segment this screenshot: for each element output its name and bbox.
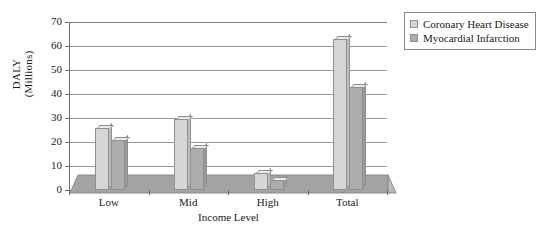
bar: [95, 128, 109, 190]
plot-area: [69, 22, 387, 190]
x-axis-labels: LowMidHighTotal: [69, 196, 388, 210]
bar-face: [349, 87, 363, 190]
bar-face: [270, 180, 284, 190]
y-axis-title: DALY (Millions): [10, 14, 34, 134]
x-axis-label-low: Low: [99, 196, 119, 209]
bar-side-3d: [188, 114, 191, 188]
bar-side-3d: [347, 34, 350, 188]
legend-item-myocardial-infarction: Myocardial Infarction: [410, 31, 529, 45]
legend-swatch-coronary-heart-disease: [410, 20, 418, 28]
bar: [349, 87, 363, 190]
x-tick-mark: [387, 190, 388, 195]
legend-swatch-myocardial-infarction: [410, 34, 418, 42]
bar-face: [95, 128, 109, 190]
bar: [254, 173, 268, 190]
x-tick-mark: [308, 190, 309, 195]
legend-label-myocardial-infarction: Myocardial Infarction: [423, 32, 520, 44]
y-tick-label: 50: [36, 64, 62, 75]
bar-series-container: [70, 22, 388, 190]
y-tick-label: 0: [36, 184, 62, 195]
legend: Coronary Heart Disease Myocardial Infarc…: [404, 12, 536, 50]
bar-side-3d: [125, 135, 128, 188]
x-axis-label-total: Total: [336, 196, 358, 209]
y-tick-label: 20: [36, 136, 62, 147]
bar: [111, 140, 125, 190]
legend-label-coronary-heart-disease: Coronary Heart Disease: [423, 18, 529, 30]
y-tick-label: 70: [36, 16, 62, 27]
y-tick-label: 40: [36, 88, 62, 99]
bar-side-3d: [109, 123, 112, 188]
y-tick-label: 60: [36, 40, 62, 51]
x-axis-title: Income Level: [69, 211, 388, 224]
y-axis-title-line2: (Millions): [22, 14, 34, 134]
x-tick-mark: [69, 190, 70, 195]
bar-face: [190, 148, 204, 190]
x-axis-label-high: High: [257, 196, 279, 209]
bar-face: [174, 119, 188, 190]
bar: [174, 119, 188, 190]
legend-item-coronary-heart-disease: Coronary Heart Disease: [410, 17, 529, 31]
x-axis-label-mid: Mid: [179, 196, 197, 209]
bar-face: [254, 173, 268, 190]
y-tick-label: 30: [36, 112, 62, 123]
y-tick-label: 10: [36, 160, 62, 171]
bar-chart: DALY (Millions) 010203040506070 LowMidHi…: [0, 0, 547, 232]
x-tick-mark: [149, 190, 150, 195]
bar-face: [111, 140, 125, 190]
bar-face: [333, 39, 347, 190]
bar: [270, 180, 284, 190]
bar: [333, 39, 347, 190]
x-tick-mark: [228, 190, 229, 195]
bar-side-3d: [363, 82, 366, 188]
bar-side-3d: [204, 143, 207, 188]
y-axis-title-line1: DALY: [10, 14, 22, 134]
bar: [190, 148, 204, 190]
